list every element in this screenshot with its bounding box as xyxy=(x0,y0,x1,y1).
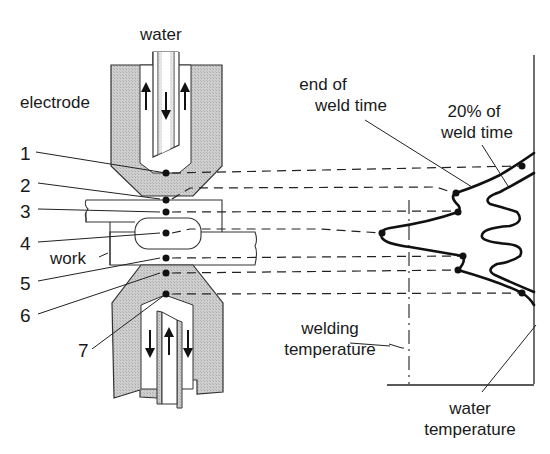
point-5 xyxy=(163,255,170,262)
point-label-4: 4 xyxy=(20,233,31,254)
point-4 xyxy=(163,230,170,237)
point-label-2: 2 xyxy=(20,175,31,196)
point-label-6: 6 xyxy=(20,305,31,326)
point-1 xyxy=(163,170,170,177)
temperature-curves xyxy=(379,153,535,305)
point-label-3: 3 xyxy=(20,201,31,222)
curve-20pct-weld-time xyxy=(482,173,534,292)
point-label-1: 1 xyxy=(20,143,31,164)
work-pieces xyxy=(85,200,256,265)
point-2 xyxy=(163,197,170,204)
welding-temperature-label-1: welding xyxy=(300,319,359,338)
point-3 xyxy=(163,209,170,216)
lower-electrode xyxy=(112,265,223,408)
electrode-label: electrode xyxy=(20,93,90,112)
point-7 xyxy=(163,291,170,298)
end-of-weld-time-label-1: end of xyxy=(299,75,347,94)
point-6 xyxy=(163,270,170,277)
water-label-top: water xyxy=(139,25,182,44)
water-temperature-label-1: water xyxy=(448,399,491,418)
work-label: work xyxy=(49,249,86,268)
point-label-5: 5 xyxy=(20,273,31,294)
welding-temperature-label-2: temperature xyxy=(284,340,376,359)
pct-weld-time-label-2: weld time xyxy=(440,123,513,142)
end-of-weld-time-label-2: weld time xyxy=(314,96,387,115)
point-label-7: 7 xyxy=(78,340,89,361)
water-temperature-label-2: temperature xyxy=(424,420,516,439)
pct-weld-time-label-1: 20% of xyxy=(448,102,501,121)
spot-weld-temperature-diagram: water electrode work 1 2 3 4 5 6 7 end o… xyxy=(0,0,550,454)
